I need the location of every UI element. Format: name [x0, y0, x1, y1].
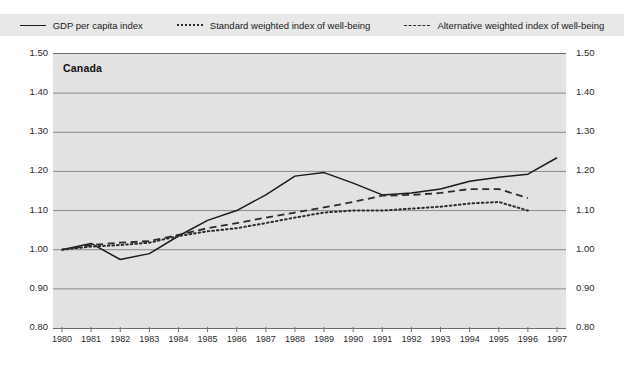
y-axis-tick-label: 1.30: [576, 125, 616, 137]
series-line-dashed: [62, 189, 528, 250]
panel-title: Canada: [63, 62, 102, 74]
line-dotted-icon: [177, 24, 203, 26]
gridlines: [53, 93, 566, 289]
legend-item-gdp: GDP per capita index: [20, 20, 143, 31]
y-axis-tick-label: 1.40: [576, 86, 616, 98]
y-axis-tick-label: 0.90: [576, 282, 616, 294]
y-axis-tick-label: 1.00: [576, 243, 616, 255]
y-axis-tick-label: 0.80: [8, 321, 48, 333]
data-series-layer: [62, 158, 557, 260]
chart-canvas: [53, 54, 566, 328]
legend-item-standard: Standard weighted index of well-being: [177, 20, 371, 31]
x-axis-tick-label: 1997: [537, 334, 577, 344]
y-axis-tick-label: 1.00: [8, 243, 48, 255]
y-axis-tick-label: 1.30: [8, 125, 48, 137]
y-axis-tick-label: 1.20: [8, 164, 48, 176]
legend-item-alternative: Alternative weighted index of well-being: [404, 20, 604, 31]
y-axis-tick-label: 1.50: [8, 47, 48, 59]
y-axis-tick-label: 0.80: [576, 321, 616, 333]
chart-plot-area: Canada: [53, 53, 566, 329]
line-solid-icon: [20, 25, 46, 26]
y-axis-tick-label: 1.20: [576, 164, 616, 176]
legend-label-alternative: Alternative weighted index of well-being: [437, 20, 604, 31]
y-axis-tick-label: 1.10: [576, 204, 616, 216]
legend-label-gdp: GDP per capita index: [53, 20, 143, 31]
y-axis-tick-label: 1.50: [576, 47, 616, 59]
line-dashed-icon: [404, 25, 430, 26]
x-axis-ticks: [0, 327, 624, 334]
y-axis-tick-label: 1.10: [8, 204, 48, 216]
y-axis-tick-label: 0.90: [8, 282, 48, 294]
legend-label-standard: Standard weighted index of well-being: [210, 20, 371, 31]
chart-legend: GDP per capita index Standard weighted i…: [0, 14, 624, 36]
y-axis-tick-label: 1.40: [8, 86, 48, 98]
